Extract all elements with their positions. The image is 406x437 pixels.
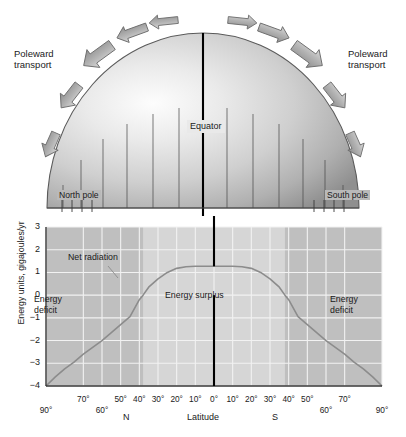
x-tick-label: 70°	[334, 395, 356, 405]
x-tick-label: 90°	[371, 406, 393, 416]
transport-arrow-icon	[227, 13, 257, 30]
x-tick-label: 60°	[315, 406, 337, 416]
transport-arrow-icon	[256, 19, 292, 46]
x-tick-label: 70°	[72, 395, 94, 405]
hemisphere-svg	[0, 0, 406, 216]
x-axis-label: Latitude	[187, 412, 219, 423]
annotation-energy-surplus: Energy surplus	[165, 290, 224, 300]
x-tick-label: 50°	[296, 395, 318, 405]
x-tick-label: 90°	[35, 406, 57, 416]
net-radiation-chart: Energy units, gigajoules/yr Net radiatio…	[0, 216, 406, 437]
equator-label: Equator	[187, 120, 225, 133]
north-pole-label: North pole	[57, 190, 101, 200]
hemisphere-diagram: Poleward transport Poleward transport Eq…	[0, 0, 406, 216]
transport-arrow-icon	[148, 13, 178, 30]
hemisphere-label-north: N	[123, 412, 130, 423]
x-tick-label: 60°	[91, 406, 113, 416]
y-tick-label: 3	[22, 221, 40, 232]
poleward-transport-label-right: Poleward transport	[348, 48, 388, 70]
y-tick-label: 0	[22, 289, 40, 300]
poleward-transport-label-left: Poleward transport	[14, 48, 54, 70]
transport-arrow-icon	[114, 19, 150, 46]
annotation-net-radiation: Net radiation	[68, 252, 118, 262]
hemisphere-label-south: S	[272, 412, 278, 423]
y-tick-label: −2	[22, 335, 40, 346]
y-tick-label: −1	[22, 312, 40, 323]
annotation-energy-deficit-right: Energy deficit	[330, 294, 358, 315]
y-tick-label: 2	[22, 244, 40, 255]
figure-energy-balance: Poleward transport Poleward transport Eq…	[0, 0, 406, 437]
y-tick-label: −3	[22, 357, 40, 368]
y-tick-label: −4	[22, 380, 40, 391]
y-tick-label: 1	[22, 266, 40, 277]
south-pole-label: South pole	[325, 190, 370, 200]
